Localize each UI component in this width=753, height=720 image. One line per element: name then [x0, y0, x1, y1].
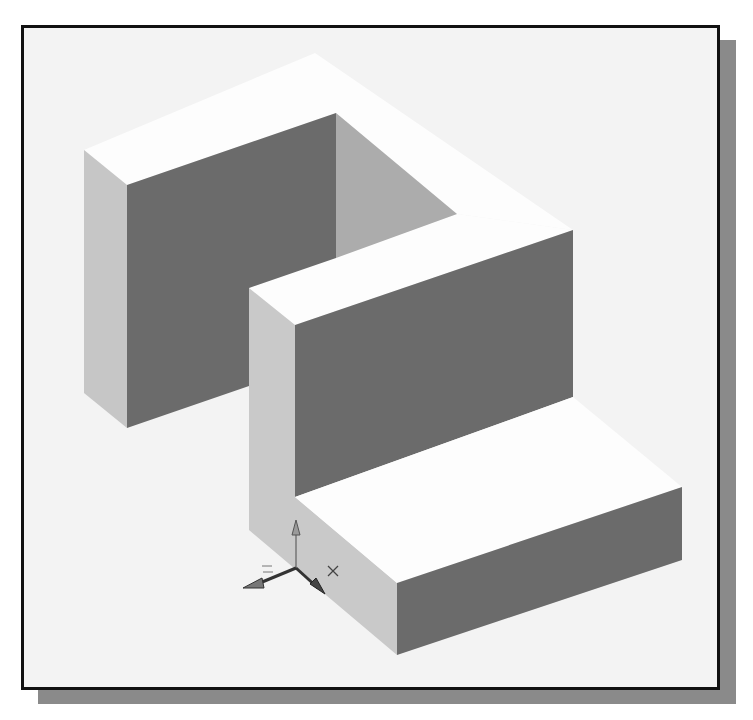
isometric-model	[0, 0, 753, 720]
back-block-side-face	[84, 150, 127, 428]
z-axis-arrow-icon	[243, 578, 264, 588]
